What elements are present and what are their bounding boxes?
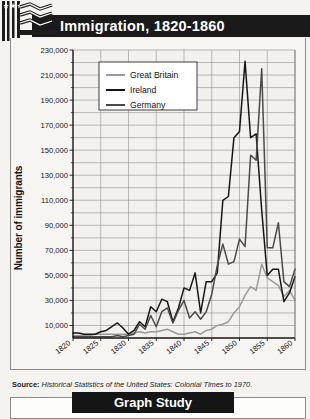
y-tick-label: 50,000 xyxy=(45,271,68,280)
y-tick-label: 110,000 xyxy=(41,196,68,205)
graph-study-label: Graph Study xyxy=(72,394,234,411)
x-tick-label: 1845 xyxy=(192,338,211,356)
y-axis-ticks: 230,000210,000190,000170,000150,000130,0… xyxy=(41,46,73,330)
source-prefix: Source: xyxy=(12,380,40,389)
legend-label-germany: Germany xyxy=(130,100,166,110)
header-band: Immigration, 1820-1860 xyxy=(0,0,310,42)
x-tick-label: 1820 xyxy=(53,338,72,356)
source-note: Source: Historical Statistics of the Uni… xyxy=(12,380,302,389)
x-tick-label: 1860 xyxy=(275,338,294,356)
x-tick-label: 1830 xyxy=(109,338,128,356)
y-axis-label: Number of immigrants xyxy=(13,148,29,288)
immigration-graph-page: Immigration, 1820-1860 230,000210,000190… xyxy=(0,0,310,419)
us-flag-icon xyxy=(0,0,58,42)
x-tick-label: 1850 xyxy=(220,338,239,356)
x-axis-ticks: 182018251830183518401845185018551860 xyxy=(53,338,295,356)
x-tick-label: 1855 xyxy=(248,338,267,356)
y-tick-label: 70,000 xyxy=(45,246,68,255)
plot-area: 230,000210,000190,000170,000150,000130,0… xyxy=(11,38,307,370)
x-tick-label: 1835 xyxy=(137,338,156,356)
y-tick-label: 210,000 xyxy=(41,71,68,80)
y-tick-label: 90,000 xyxy=(45,221,68,230)
y-tick-label: 30,000 xyxy=(45,296,68,305)
immigration-line-chart: 230,000210,000190,000170,000150,000130,0… xyxy=(11,38,307,370)
page-title: Immigration, 1820-1860 xyxy=(60,17,300,36)
chart-legend: Great BritainIrelandGermany xyxy=(99,62,197,110)
x-tick-label: 1840 xyxy=(164,338,183,356)
y-tick-label: 130,000 xyxy=(41,171,68,180)
x-tick-label: 1825 xyxy=(81,338,100,356)
legend-label-great-britain: Great Britain xyxy=(130,70,178,80)
y-tick-label: 190,000 xyxy=(41,96,68,105)
y-tick-label: 170,000 xyxy=(41,121,68,130)
source-text: Historical Statistics of the United Stat… xyxy=(42,380,253,389)
y-tick-label: 10,000 xyxy=(45,321,68,330)
y-tick-label: 150,000 xyxy=(41,146,68,155)
chart-card: 230,000210,000190,000170,000150,000130,0… xyxy=(10,38,306,370)
legend-label-ireland: Ireland xyxy=(130,85,156,95)
y-tick-label: 230,000 xyxy=(41,46,68,55)
